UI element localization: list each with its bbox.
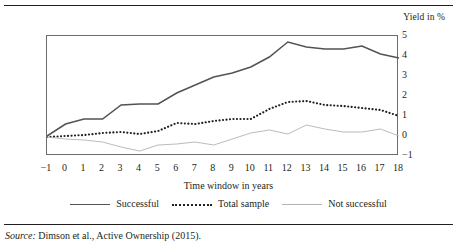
figure-container: Yield in % 543210−1 −1012345678910111213…	[0, 0, 457, 250]
x-tick-label: 5	[155, 162, 160, 174]
plot-area	[46, 35, 398, 155]
legend-item-successful[interactable]: Successful	[70, 198, 159, 209]
bottom-divider-rule	[4, 224, 453, 225]
x-tick-label: 2	[99, 162, 104, 174]
source-note: Source: Dimson et al., Active Ownership …	[5, 230, 201, 241]
y-tick-label: 5	[402, 30, 407, 40]
y-tick-label: 3	[402, 70, 407, 80]
x-tick-label: 15	[337, 162, 347, 174]
x-tick-label: 0	[62, 162, 67, 174]
legend-label-successful: Successful	[116, 198, 159, 209]
y-tick-label: 1	[402, 110, 407, 120]
x-tick-label: 4	[136, 162, 141, 174]
y-axis-tick-labels: 543210−1	[402, 35, 432, 155]
legend-label-total-sample: Total sample	[218, 198, 269, 209]
top-divider-rule	[4, 5, 453, 6]
x-axis-title: Time window in years	[0, 180, 457, 191]
y-tick-label: 2	[402, 90, 407, 100]
x-tick-label: 12	[282, 162, 292, 174]
chart-legend: SuccessfulTotal sampleNot successful	[0, 198, 457, 209]
x-axis-tick-labels: −10123456789101112131415161718	[46, 162, 398, 176]
series-line-not-successful	[47, 125, 399, 151]
legend-swatch-successful	[70, 200, 110, 207]
legend-swatch-total-sample	[172, 200, 212, 207]
x-tick-label: 7	[192, 162, 197, 174]
source-label: Source:	[5, 230, 36, 241]
x-tick-label: 11	[263, 162, 273, 174]
x-tick-label: 3	[118, 162, 123, 174]
legend-item-not-successful[interactable]: Not successful	[282, 198, 387, 209]
chart-svg	[47, 36, 399, 156]
y-tick-label: −1	[402, 150, 413, 160]
x-tick-label: 9	[229, 162, 234, 174]
series-line-successful	[47, 42, 399, 136]
y-tick-label: 4	[402, 50, 407, 60]
x-tick-label: −1	[41, 162, 52, 174]
x-tick-label: 18	[393, 162, 403, 174]
x-tick-label: 10	[245, 162, 255, 174]
x-tick-label: 13	[300, 162, 310, 174]
x-tick-label: 1	[81, 162, 86, 174]
x-tick-label: 17	[375, 162, 385, 174]
x-tick-label: 6	[173, 162, 178, 174]
x-tick-label: 8	[210, 162, 215, 174]
y-tick-label: 0	[402, 130, 407, 140]
x-tick-label: 14	[319, 162, 329, 174]
y-axis-title: Yield in %	[403, 12, 445, 22]
legend-label-not-successful: Not successful	[328, 198, 387, 209]
legend-item-total-sample[interactable]: Total sample	[172, 198, 269, 209]
legend-swatch-not-successful	[282, 200, 322, 207]
source-citation: Dimson et al., Active Ownership (2015).	[38, 230, 201, 241]
x-tick-label: 16	[356, 162, 366, 174]
